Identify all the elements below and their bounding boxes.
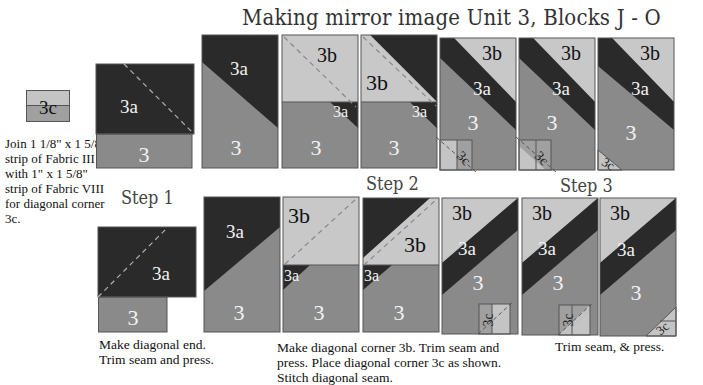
label-3a: 3a bbox=[412, 103, 427, 120]
label-3b: 3b bbox=[561, 42, 581, 64]
label-3b: 3b bbox=[404, 232, 426, 257]
label-3b: 3b bbox=[482, 42, 502, 64]
label-3: 3 bbox=[631, 280, 642, 305]
label-3: 3 bbox=[553, 270, 564, 295]
label-3a: 3a bbox=[120, 96, 139, 117]
label-3: 3 bbox=[311, 135, 322, 160]
label-3a: 3a bbox=[230, 58, 249, 79]
instruction-line: Make diagonal corner 3b. Trim seam and bbox=[277, 340, 501, 355]
bottom-panel-7: 3b 3a 3 3c bbox=[600, 198, 676, 338]
bottom-panel-4: 3b 3a 3 bbox=[363, 198, 439, 332]
bottom-panel-1: 3a 3 bbox=[98, 227, 196, 332]
instruction-line: Stitch diagonal seam. bbox=[277, 370, 501, 385]
top-panel-2: 3a 3 bbox=[202, 35, 278, 168]
label-3b: 3b bbox=[532, 202, 552, 224]
label-3b: 3b bbox=[288, 203, 310, 228]
label-3a: 3a bbox=[284, 267, 299, 284]
label-3c: 3c bbox=[481, 313, 496, 326]
label-3b: 3b bbox=[452, 202, 472, 224]
bottom-panel-5: 3b 3a 3 3c bbox=[442, 198, 518, 334]
label-3: 3 bbox=[231, 135, 242, 160]
label-3: 3 bbox=[139, 142, 150, 167]
label-3: 3 bbox=[468, 110, 479, 135]
label-3: 3 bbox=[128, 305, 139, 330]
instruction-line: press. Place diagonal corner 3c as shown… bbox=[277, 355, 501, 370]
label-3c: 3c bbox=[561, 313, 576, 326]
label-3a: 3a bbox=[364, 267, 379, 284]
top-panel-1: 3a 3 bbox=[96, 64, 194, 168]
label-3: 3 bbox=[547, 110, 558, 135]
label-3b: 3b bbox=[317, 44, 337, 66]
label-3a: 3a bbox=[458, 238, 477, 259]
bottom-panel-2: 3a 3 bbox=[204, 197, 280, 332]
instruction-line: Trim seam and press. bbox=[99, 352, 214, 367]
instruction-line: Make diagonal end. bbox=[99, 337, 214, 352]
label-3a: 3a bbox=[552, 78, 571, 99]
label-3: 3 bbox=[626, 120, 637, 145]
step-3-instructions: Trim seam, & press. bbox=[555, 339, 664, 354]
label-3b: 3b bbox=[640, 42, 660, 64]
top-panel-3: 3b 3a 3 bbox=[282, 35, 358, 168]
label-3a: 3a bbox=[152, 263, 171, 284]
label-3a: 3a bbox=[473, 78, 492, 99]
label-3: 3 bbox=[394, 300, 405, 325]
label-3a: 3a bbox=[226, 221, 245, 242]
top-panel-7: 3b 3a 3 3c bbox=[598, 38, 674, 173]
label-3a: 3a bbox=[631, 78, 650, 99]
label-3a: 3a bbox=[617, 239, 636, 260]
label-3a: 3a bbox=[333, 103, 348, 120]
label-3: 3 bbox=[473, 270, 484, 295]
step-1-instructions: Make diagonal end. Trim seam and press. bbox=[99, 337, 214, 367]
bottom-panel-3: 3b 3a 3 bbox=[283, 197, 359, 332]
label-3a: 3a bbox=[538, 238, 557, 259]
label-3b: 3b bbox=[366, 70, 388, 95]
label-3: 3 bbox=[389, 135, 400, 160]
step-2-instructions: Make diagonal corner 3b. Trim seam and p… bbox=[277, 340, 501, 385]
label-3: 3 bbox=[314, 300, 325, 325]
bottom-panel-6: 3b 3a 3 3c bbox=[522, 198, 598, 335]
top-panel-4: 3b 3a 3 bbox=[361, 35, 437, 168]
instruction-line: Trim seam, & press. bbox=[555, 339, 664, 354]
top-panel-6: 3b 3a 3 3c bbox=[516, 38, 595, 172]
top-panel-5: 3b 3a 3 3c bbox=[436, 38, 516, 172]
label-3: 3 bbox=[234, 300, 245, 325]
label-3b: 3b bbox=[610, 202, 630, 224]
